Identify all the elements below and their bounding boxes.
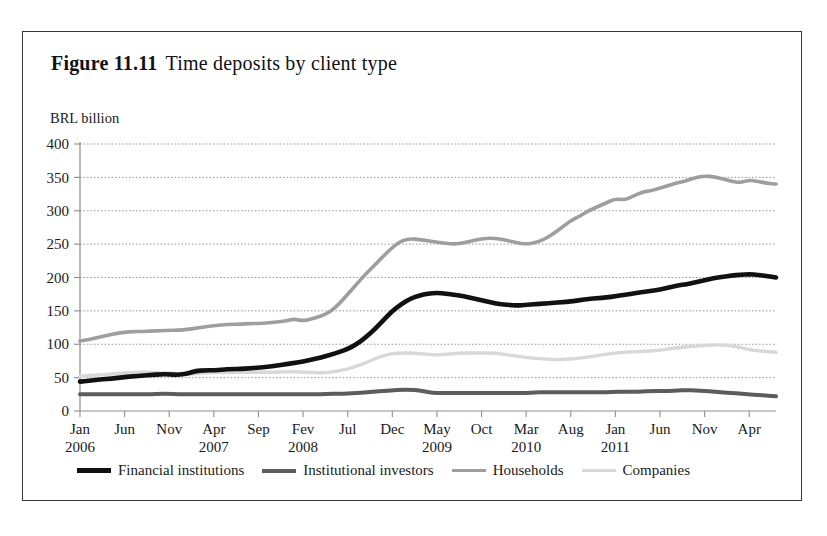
x-tick-label-year: 2007 [199,439,230,455]
chart-legend: Financial institutionsInstitutional inve… [77,462,708,479]
y-tick-label: 100 [47,336,70,352]
y-tick-label: 0 [62,403,70,419]
x-tick-label-month: Apr [738,421,761,437]
y-tick-label: 250 [47,236,70,252]
x-tick-label-month: Dec [380,421,404,437]
legend-item[interactable]: Companies [582,462,691,479]
legend-label: Households [493,462,564,479]
series-line-households [80,176,776,341]
chart-plot-area: 050100150200250300350400 Jan2006JunNovAp… [23,32,803,502]
y-tick-label: 50 [54,370,69,386]
legend-label: Institutional investors [303,462,433,479]
x-tick-label-month: Nov [156,421,182,437]
x-tick-label-year: 2010 [511,439,541,455]
x-tick-label-month: Fev [292,421,315,437]
legend-swatch-icon [452,469,486,473]
figure-card: Figure 11.11Time deposits by client type… [22,31,802,501]
x-tick-label-month: Jun [650,421,671,437]
legend-swatch-icon [262,469,296,473]
legend-label: Financial institutions [118,462,244,479]
x-tick-label-year: 2006 [65,439,96,455]
x-tick-label-month: Nov [692,421,718,437]
x-tick-label-month: Jun [114,421,135,437]
x-tick-label-year: 2011 [601,439,630,455]
x-tick-label-month: Apr [202,421,225,437]
x-tick-label-month: Jan [70,421,90,437]
x-tick-label-month: Aug [558,421,584,437]
y-tick-label: 200 [47,270,70,286]
x-tick-label-year: 2009 [422,439,452,455]
legend-item[interactable]: Institutional investors [262,462,433,479]
legend-item[interactable]: Households [452,462,564,479]
legend-label: Companies [623,462,691,479]
x-tick-label-year: 2008 [288,439,318,455]
legend-swatch-icon [582,469,616,473]
x-tick-label-month: Sep [247,421,270,437]
x-tick-label-month: Oct [471,421,493,437]
series-line-institutional-investors [80,390,776,397]
y-tick-label: 150 [47,303,70,319]
line-chart-svg: 050100150200250300350400 Jan2006JunNovAp… [23,32,803,502]
y-tick-label: 350 [47,170,70,186]
x-tick-labels-group: Jan2006JunNovApr2007SepFev2008JulDecMay2… [65,421,761,455]
axes-group [80,142,776,411]
x-tick-label-month: Jan [605,421,625,437]
x-tick-label-month: May [423,421,451,437]
y-tick-label: 400 [47,136,70,152]
data-series-group [80,176,776,396]
x-tick-label-month: Mar [514,421,539,437]
series-line-companies [80,345,776,376]
y-tick-labels-group: 050100150200250300350400 [47,136,70,419]
y-tick-label: 300 [47,203,70,219]
legend-swatch-icon [77,468,111,473]
x-tick-label-month: Jul [339,421,357,437]
gridlines-group [80,144,776,378]
legend-item[interactable]: Financial institutions [77,462,244,479]
